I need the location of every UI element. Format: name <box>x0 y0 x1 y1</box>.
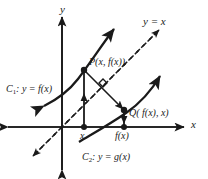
figure-canvas: y x y = x P(x, f(x)) Q( f(x), x) C1: y =… <box>0 0 208 179</box>
curve-c2-label: C2: y = g(x) <box>82 152 130 163</box>
curve-c2-equation: : y = g(x) <box>92 151 130 162</box>
point-p-label: P(x, f(x)) <box>89 57 125 67</box>
curve-c2-name: C <box>82 151 89 162</box>
x-axis-label: x <box>191 119 196 130</box>
curve-c1-name: C <box>6 83 13 94</box>
tick-label-x: x <box>80 131 84 141</box>
point-q-label: Q( f(x), x) <box>129 108 169 118</box>
point-q-marker <box>121 107 127 113</box>
segment-p-to-xaxis <box>81 71 88 127</box>
segment-pq <box>85 71 123 109</box>
point-p-marker <box>81 67 87 73</box>
curve-c1-label: C1: y = f(x) <box>6 84 52 95</box>
tick-label-fx: f(x) <box>115 131 129 141</box>
curve-c1 <box>44 29 114 106</box>
y-axis-label: y <box>60 4 65 15</box>
identity-line-label: y = x <box>143 16 166 27</box>
curve-c1-equation: : y = f(x) <box>16 83 52 94</box>
